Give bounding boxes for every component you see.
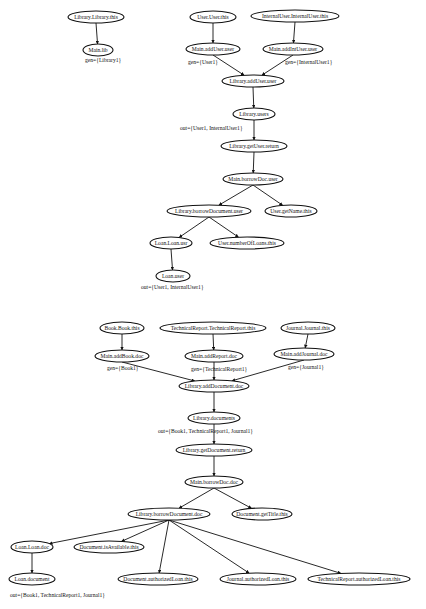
node-label: TechnicalReport.TechnicalReport.this xyxy=(171,325,256,331)
node-lib_getdoc_ret: Library.getDocument.return xyxy=(176,444,252,456)
edge-lib_borrowdocument_user-to-loan_loan_usr xyxy=(179,217,209,237)
node-loan_user: Loan.user xyxy=(156,270,190,282)
edge-lib_borrowdocument_doc-to-loan_loan_doc xyxy=(49,520,169,544)
annotation-gen_internaluser: gen={InternalUser1} xyxy=(285,59,333,66)
edge-journal_this-to-main_addjournal xyxy=(305,334,308,348)
node-label: Library.borrowDocument.doc xyxy=(136,511,203,517)
node-lib_documents: Library.documents xyxy=(188,412,240,424)
node-journal_authloan: Journal.authorizedLoan.this xyxy=(220,573,296,585)
node-label: Book.Book.this xyxy=(104,325,139,331)
annotation-gen_library: gen={Library1} xyxy=(85,57,121,64)
node-main_addintuser: Main.addIntUser.user xyxy=(263,43,323,55)
node-label: Library.documents xyxy=(193,415,235,421)
node-tr_this: TechnicalReport.TechnicalReport.this xyxy=(160,322,266,334)
node-main_adduser: Main.addUser.user xyxy=(186,43,240,55)
edge-main_borrowdoc_user-to-lib_borrowdocument_user xyxy=(219,185,253,205)
node-label: Loan.Loan.doc xyxy=(15,544,49,550)
annotation-gen_book: gen={Book1} xyxy=(107,365,139,372)
edge-lib_getuser_ret-to-main_borrowdoc_user xyxy=(253,152,254,173)
dataflow-graph: Library.Library.thisMain.libUser.User.th… xyxy=(0,0,426,609)
node-label: User.User.this xyxy=(197,14,228,20)
node-lib_adddocument: Library.addDocument.doc xyxy=(179,380,249,392)
node-label: Loan.Loan.usr xyxy=(155,240,188,246)
annotation-gen_technicalreport: gen={TechnicalReport1} xyxy=(191,366,248,373)
node-label: Library.Library.this xyxy=(74,14,118,20)
node-lib_adduser: Library.addUser.user xyxy=(222,75,284,87)
node-journal_this: Journal.Journal.this xyxy=(281,322,335,334)
node-label: Library.addDocument.doc xyxy=(185,383,244,389)
node-label: Document.authorizedLoan.this xyxy=(123,576,192,582)
node-label: Main.addJournal.doc xyxy=(280,351,328,357)
node-user_getname: User.getName.this xyxy=(265,205,317,217)
node-user_numloans: User.numberOfLoans.this xyxy=(210,237,284,249)
node-loan_document: Loan.document xyxy=(9,573,55,585)
edge-lib_borrowdocument_user-to-user_numloans xyxy=(209,217,238,237)
node-main_lib: Main.lib xyxy=(83,44,113,56)
edge-main_borrowdoc_doc-to-lib_borrowdocument_doc xyxy=(179,488,214,508)
annotation-gen_user: gen={User1} xyxy=(188,59,218,66)
edge-lib_adduser-to-lib_users xyxy=(253,87,254,108)
node-label: Library.getDocument.return xyxy=(183,447,246,453)
edge-lib_borrowdocument_doc-to-doc_isavailable xyxy=(121,520,169,541)
node-main_addreport: Main.addReport.doc xyxy=(185,350,243,362)
node-label: Library.users xyxy=(239,111,268,117)
node-loan_loan_doc: Loan.Loan.doc xyxy=(11,541,53,553)
node-label: Document.isAvailable.this xyxy=(79,544,138,550)
node-main_addbook: Main.addBook.doc xyxy=(95,350,149,362)
node-label: Document.getTitle.this xyxy=(236,511,287,517)
node-doc_authloan: Document.authorizedLoan.this xyxy=(118,573,198,585)
node-tr_authloan: TechnicalReport.authorizedLoan.this xyxy=(308,573,410,585)
node-label: Library.addUser.user xyxy=(230,78,277,84)
edge-lib_this-to-main_lib xyxy=(96,23,98,44)
node-main_borrowdoc_doc: Main.borrowDoc.doc xyxy=(185,476,243,488)
node-main_borrowdoc_user: Main.borrowDoc.user xyxy=(223,173,283,185)
edge-tr_this-to-main_addreport xyxy=(213,334,214,350)
node-lib_borrowdocument_doc: Library.borrowDocument.doc xyxy=(128,508,210,520)
annotation-gen_journal: gen={Journal1} xyxy=(288,364,324,371)
node-lib_borrowdocument_user: Library.borrowDocument.user xyxy=(167,205,251,217)
node-doc_gettitle: Document.getTitle.this xyxy=(232,508,292,520)
node-iuser_this: InternalUser.InternalUser.this xyxy=(251,10,339,22)
edge-iuser_this-to-main_addintuser xyxy=(293,22,295,43)
node-label: Main.addIntUser.user xyxy=(269,46,318,52)
edge-loan_loan_usr-to-loan_user xyxy=(171,249,173,270)
node-label: Main.addReport.doc xyxy=(191,353,237,359)
edge-main_borrowdoc_user-to-user_getname xyxy=(253,185,283,205)
node-user_this: User.User.this xyxy=(190,11,236,23)
node-lib_this: Library.Library.this xyxy=(68,11,124,23)
edge-lib_borrowdocument_doc-to-journal_authloan xyxy=(169,520,249,573)
edge-lib_borrowdocument_doc-to-doc_authloan xyxy=(159,520,169,573)
node-label: Library.getUser.return xyxy=(229,143,279,149)
edge-main_borrowdoc_doc-to-doc_gettitle xyxy=(214,488,252,508)
annotation-out_users: out={User1, InternalUser1} xyxy=(180,125,243,132)
node-label: Main.borrowDoc.user xyxy=(228,176,278,182)
node-label: Main.addBook.doc xyxy=(101,353,144,359)
annotation-out_loan_user: out={User1, InternalUser1} xyxy=(141,284,204,291)
node-label: Loan.document xyxy=(15,576,50,582)
nodes-layer: Library.Library.thisMain.libUser.User.th… xyxy=(9,10,410,585)
node-label: Library.borrowDocument.user xyxy=(175,208,243,214)
node-label: Journal.authorizedLoan.this xyxy=(227,576,289,582)
annotation-out_loan_document: out={Book1, TechnicalReport1, Journal1} xyxy=(10,592,105,599)
node-lib_getuser_ret: Library.getUser.return xyxy=(221,140,287,152)
node-label: TechnicalReport.authorizedLoan.this xyxy=(318,576,401,582)
node-book_this: Book.Book.this xyxy=(100,322,144,334)
node-label: Journal.Journal.this xyxy=(286,325,330,331)
node-label: Loan.user xyxy=(162,273,184,279)
annotation-out_documents: out={Book1, TechnicalReport1, Journal1} xyxy=(158,428,253,435)
node-main_addjournal: Main.addJournal.doc xyxy=(274,348,334,360)
node-label: User.getName.this xyxy=(270,208,311,214)
node-label: Main.addUser.user xyxy=(192,46,234,52)
edge-lib_borrowdocument_doc-to-tr_authloan xyxy=(169,520,341,573)
node-doc_isavailable: Document.isAvailable.this xyxy=(74,541,144,553)
edges-layer xyxy=(32,22,341,573)
node-label: User.numberOfLoans.this xyxy=(218,240,276,246)
node-label: Main.borrowDoc.doc xyxy=(190,479,239,485)
node-loan_loan_usr: Loan.Loan.usr xyxy=(150,237,192,249)
node-label: Main.lib xyxy=(88,47,107,53)
node-lib_users: Library.users xyxy=(233,108,275,120)
node-label: InternalUser.InternalUser.this xyxy=(262,13,328,19)
